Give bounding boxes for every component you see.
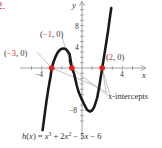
point-label-neg1: (−1, 0)	[40, 29, 63, 39]
y-tick-label: 4	[75, 43, 79, 52]
y-axis-label: y	[71, 0, 76, 10]
y-tick-label: 8	[75, 22, 79, 31]
function-label: h(x) = x3 + 2x2 − 5x − 6	[22, 131, 102, 141]
x-intercepts-annotation: x-intercepts	[108, 91, 148, 101]
x-axis-label: x	[141, 70, 146, 80]
point-label-2: (2, 0)	[106, 52, 125, 62]
x-tick-label: −4	[35, 70, 43, 79]
y-tick-label: −8	[69, 106, 77, 115]
intercept-point	[69, 65, 75, 71]
point-label-neg3: (−3, 0)	[4, 48, 27, 58]
x-axis: −4 4 x	[20, 66, 146, 81]
intercept-point	[99, 65, 105, 71]
graph-canvas: 2. −4 4 x	[0, 0, 162, 148]
exercise-number: 2.	[0, 0, 6, 11]
intercept-point	[49, 65, 55, 71]
x-tick-label: 4	[120, 70, 124, 79]
